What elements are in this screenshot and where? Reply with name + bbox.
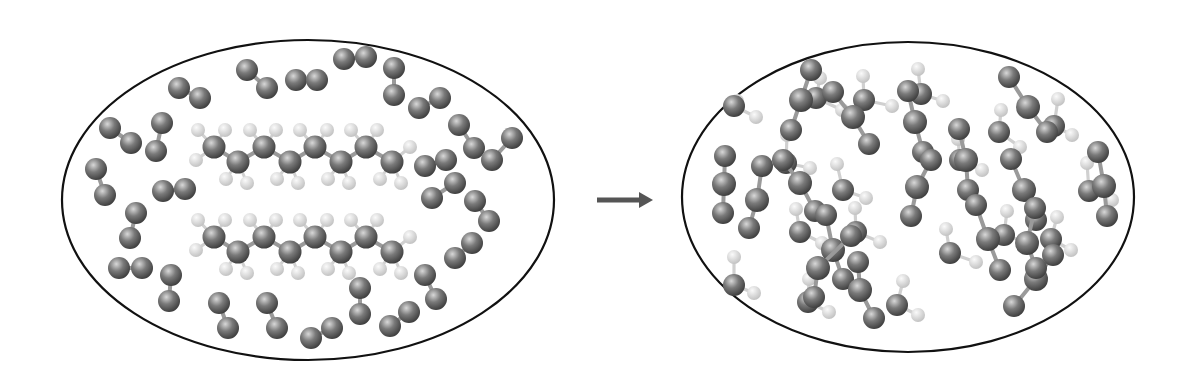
oxygen-atom <box>939 242 961 264</box>
oxygen-atom <box>815 204 837 226</box>
oxygen-atom <box>463 137 485 159</box>
carbon-atom <box>355 226 378 249</box>
oxygen-atom <box>832 179 854 201</box>
water-molecule <box>853 69 899 113</box>
hydrogen-atom <box>370 213 384 227</box>
carbon-dioxide-molecule <box>847 251 885 329</box>
oxygen-atom <box>948 118 970 140</box>
oxygen-atom <box>444 247 466 269</box>
hydrogen-atom <box>240 176 254 190</box>
oxygen-atom <box>714 145 736 167</box>
oxygen-atom <box>712 202 734 224</box>
oxygen-atom <box>398 301 420 323</box>
hydrogen-atom <box>218 123 232 137</box>
oxygen-atom <box>858 133 880 155</box>
oxygen-atom <box>120 132 142 154</box>
hydrogen-atom <box>320 123 334 137</box>
reactant-heavy-atoms <box>85 46 523 349</box>
carbon-dioxide-molecule <box>1003 244 1064 317</box>
hydrogen-atom <box>1064 243 1078 257</box>
hydrogen-atom <box>270 172 284 186</box>
oxygen-atom <box>464 190 486 212</box>
hydrogen-atom <box>189 243 203 257</box>
carbon-atom <box>976 227 1000 251</box>
oxygen-atom <box>131 257 153 279</box>
hydrogen-atom <box>240 266 254 280</box>
hydrogen-atom <box>342 176 356 190</box>
oxygen-atom <box>840 225 862 247</box>
oxygen-atom <box>189 87 211 109</box>
oxygen-atom <box>988 121 1010 143</box>
hydrogen-atom <box>911 62 925 76</box>
oxygen-atom <box>94 184 116 206</box>
hydrogen-atom <box>320 213 334 227</box>
hydrogen-atom <box>291 266 305 280</box>
hydrogen-atom <box>219 262 233 276</box>
carbon-atom <box>789 88 813 112</box>
oxygen-atom <box>897 80 919 102</box>
oxygen-atom <box>379 315 401 337</box>
oxygen-atom <box>174 178 196 200</box>
oxygen-atom <box>168 77 190 99</box>
hydrogen-atom <box>191 213 205 227</box>
carbon-atom <box>903 110 927 134</box>
hydrogen-atom <box>994 103 1008 117</box>
hydrogen-atom <box>403 230 417 244</box>
hydrogen-atom <box>403 140 417 154</box>
carbon-atom <box>355 136 378 159</box>
carbon-atom <box>330 241 353 264</box>
oxygen-atom <box>989 259 1011 281</box>
oxygen-atom <box>1000 148 1022 170</box>
carbon-atom <box>788 171 812 195</box>
oxygen-atom <box>256 77 278 99</box>
hydrogen-atom <box>191 123 205 137</box>
hydrogen-atom <box>848 201 862 215</box>
carbon-atom <box>381 241 404 264</box>
carbon-atom <box>712 172 736 196</box>
hydrogen-atom <box>911 308 925 322</box>
oxygen-atom <box>1003 295 1025 317</box>
oxygen-atom <box>256 292 278 314</box>
oxygen-atom <box>886 294 908 316</box>
oxygen-atom <box>847 251 869 273</box>
oxygen-atom <box>408 97 430 119</box>
oxygen-atom <box>333 48 355 70</box>
arrow-head-icon <box>639 192 653 208</box>
hydrogen-atom <box>1065 128 1079 142</box>
reaction-arrow <box>597 192 653 208</box>
hydrogen-atom <box>939 222 953 236</box>
reactants-container <box>62 40 554 360</box>
hydrogen-atom <box>856 69 870 83</box>
oxygen-atom <box>900 205 922 227</box>
hydrogen-atom <box>1050 210 1064 224</box>
hydrogen-atom <box>321 262 335 276</box>
water-molecule <box>723 94 763 124</box>
oxygen-atom <box>152 180 174 202</box>
oxygen-atom <box>429 87 451 109</box>
hydrogen-atom <box>749 110 763 124</box>
oxygen-atom <box>85 158 107 180</box>
hydrogen-atom <box>394 266 408 280</box>
carbon-atom <box>330 151 353 174</box>
hydrogen-atom <box>859 191 873 205</box>
oxygen-atom <box>965 194 987 216</box>
carbon-atom <box>745 188 769 212</box>
hydrogen-atom <box>269 123 283 137</box>
oxygen-atom <box>751 155 773 177</box>
water-molecule <box>723 250 761 300</box>
hydrogen-atom <box>219 172 233 186</box>
oxygen-atom <box>723 274 745 296</box>
hydrogen-atom <box>373 262 387 276</box>
oxygen-atom <box>803 286 825 308</box>
hydrogen-atom <box>747 286 761 300</box>
oxygen-atom <box>383 57 405 79</box>
carbon-atom <box>253 226 276 249</box>
oxygen-atom <box>738 217 760 239</box>
oxygen-atom <box>501 127 523 149</box>
oxygen-atom <box>822 81 844 103</box>
carbon-atom <box>954 148 978 172</box>
carbon-atom <box>304 136 327 159</box>
diagram-canvas <box>0 0 1191 380</box>
carbon-atom <box>1092 174 1116 198</box>
carbon-atom <box>905 175 929 199</box>
